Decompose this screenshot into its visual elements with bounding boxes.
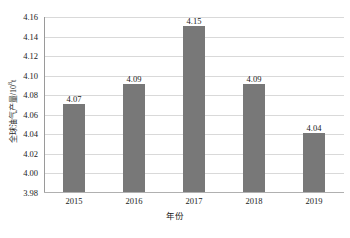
bar-value-label: 4.09 bbox=[127, 74, 142, 84]
x-axis-tick-label: 2018 bbox=[246, 196, 263, 206]
bar-value-label: 4.15 bbox=[187, 16, 202, 26]
bar-value-label: 4.09 bbox=[247, 74, 262, 84]
bar bbox=[303, 133, 325, 192]
y-axis-tick-label: 4.12 bbox=[12, 51, 38, 61]
bar-value-label: 4.04 bbox=[307, 123, 322, 133]
y-axis-tick-label: 4.16 bbox=[12, 12, 38, 22]
bar-chart: 全球油气产量/108t 4.164.144.124.104.084.064.04… bbox=[0, 0, 350, 238]
y-axis-tick-label: 4.10 bbox=[12, 71, 38, 81]
bar bbox=[183, 26, 205, 192]
y-axis-line bbox=[44, 17, 45, 193]
bar bbox=[63, 104, 85, 192]
x-axis-title: 年份 bbox=[0, 209, 350, 221]
y-axis-tick-label: 3.98 bbox=[12, 188, 38, 198]
x-axis-tick-label: 2015 bbox=[66, 196, 83, 206]
bar bbox=[243, 84, 265, 192]
y-axis-tick-label: 4.06 bbox=[12, 110, 38, 120]
x-axis-tick-label: 2016 bbox=[126, 196, 143, 206]
plot-area bbox=[44, 17, 344, 193]
x-axis-line bbox=[44, 192, 344, 193]
bar bbox=[123, 84, 145, 192]
x-axis-tick-label: 2017 bbox=[186, 196, 203, 206]
y-axis-tick-labels: 4.164.144.124.104.084.064.044.024.003.98 bbox=[10, 0, 38, 238]
y-axis-tick-label: 4.04 bbox=[12, 129, 38, 139]
y-axis-tick-label: 4.02 bbox=[12, 149, 38, 159]
y-axis-tick-label: 4.00 bbox=[12, 168, 38, 178]
x-axis-tick-label: 2019 bbox=[306, 196, 323, 206]
y-axis-tick-label: 4.14 bbox=[12, 32, 38, 42]
y-axis-tick-label: 4.08 bbox=[12, 90, 38, 100]
bar-value-label: 4.07 bbox=[67, 94, 82, 104]
